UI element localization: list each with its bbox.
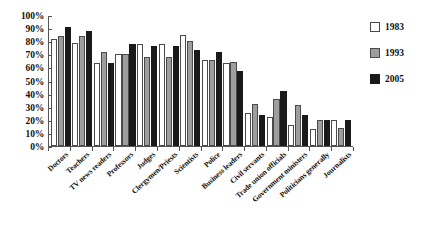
bar <box>129 44 135 146</box>
legend-label: 1993 <box>385 48 404 58</box>
bar <box>295 105 301 146</box>
legend-swatch-icon <box>370 48 380 58</box>
legend-swatch-icon <box>370 22 380 32</box>
bar-group <box>309 16 331 146</box>
bar <box>166 57 172 146</box>
bar <box>237 71 243 146</box>
legend-label: 1983 <box>385 22 404 32</box>
bar <box>267 117 273 146</box>
bars-layer <box>49 16 353 146</box>
bar <box>86 31 92 146</box>
bar-group <box>244 16 266 146</box>
bar <box>144 57 150 146</box>
bar <box>51 39 57 146</box>
bar <box>230 62 236 146</box>
bar <box>216 52 222 146</box>
bar <box>310 129 316 146</box>
bar <box>288 125 294 146</box>
bar <box>202 60 208 146</box>
bar <box>173 46 179 146</box>
bar <box>187 41 193 146</box>
bar <box>209 60 215 146</box>
bar <box>72 43 78 146</box>
y-axis-tick-label: 50% <box>26 77 44 87</box>
y-axis-tick-label: 30% <box>26 103 44 113</box>
bar <box>94 63 100 146</box>
bar-group <box>266 16 288 146</box>
chart-legend: 198319932005 <box>370 14 434 92</box>
bar-group <box>201 16 223 146</box>
bar <box>302 115 308 146</box>
legend-swatch-icon <box>370 74 380 84</box>
bar <box>65 27 71 146</box>
y-axis-tick-label: 70% <box>26 50 44 60</box>
bar <box>273 99 279 146</box>
y-axis-tick-label: 80% <box>26 37 44 47</box>
y-axis-tick-label: 20% <box>26 116 44 126</box>
bar <box>101 52 107 146</box>
y-axis-tick-label: 60% <box>26 63 44 73</box>
y-axis-tick-label: 40% <box>26 90 44 100</box>
y-axis-tick-label: 90% <box>26 24 44 34</box>
x-axis-tick <box>353 147 354 151</box>
bar <box>317 120 323 146</box>
bar <box>122 54 128 146</box>
y-axis-tick-label: 100% <box>21 11 44 21</box>
bar <box>159 44 165 146</box>
legend-item: 1993 <box>370 40 434 66</box>
bar <box>324 120 330 146</box>
bar <box>338 128 344 146</box>
bar-group <box>287 16 309 146</box>
bar <box>223 63 229 146</box>
bar <box>108 63 114 146</box>
bar-group <box>158 16 180 146</box>
bar-group <box>179 16 201 146</box>
bar-group <box>93 16 115 146</box>
bar <box>331 120 337 146</box>
y-axis-tick-label: 10% <box>26 129 44 139</box>
bar <box>180 35 186 146</box>
x-axis-labels: DoctorsTeachersTV news readersProfessors… <box>48 150 353 233</box>
bar <box>79 36 85 146</box>
bar <box>58 36 64 146</box>
legend-item: 1983 <box>370 14 434 40</box>
y-axis-labels: 100%90%80%70%60%50%40%30%20%10%0% <box>0 16 44 147</box>
bar <box>151 46 157 146</box>
legend-label: 2005 <box>385 74 404 84</box>
legend-item: 2005 <box>370 66 434 92</box>
y-axis-tick-label: 0% <box>30 142 44 152</box>
bar <box>252 104 258 146</box>
bar <box>137 44 143 146</box>
bar-chart: 100%90%80%70%60%50%40%30%20%10%0% Doctor… <box>0 0 437 233</box>
plot-area <box>48 16 353 147</box>
bar-group <box>50 16 72 146</box>
bar <box>245 113 251 146</box>
bar-group <box>115 16 137 146</box>
bar-group <box>223 16 245 146</box>
bar <box>115 54 121 146</box>
bar <box>259 115 265 146</box>
bar <box>194 50 200 146</box>
bar-group <box>331 16 353 146</box>
bar-group <box>72 16 94 146</box>
bar <box>345 120 351 146</box>
bar <box>280 91 286 146</box>
bar-group <box>136 16 158 146</box>
